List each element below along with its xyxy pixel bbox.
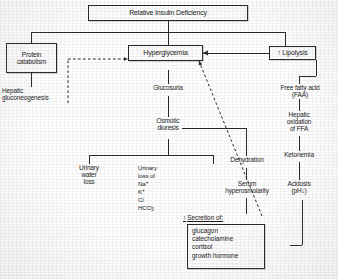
node-relative-insulin-deficiency[interactable]: Relative Insulin Deficiency [88, 5, 248, 21]
node-glucosuria: Glucosuria [140, 84, 196, 91]
node-lipolysis[interactable]: ↑ Lipolysis [269, 46, 316, 60]
secretion-header: ↑Secretion of: [183, 214, 223, 221]
node-label: Relative Insulin Deficiency [129, 9, 207, 17]
scan-vignette-overlay [0, 0, 338, 279]
node-hepatic-oxidation-ffa: Hepatic oxidation of FFA [270, 111, 328, 132]
node-label-line1: Hepatic [2, 87, 64, 94]
hormone-item: catecholamine [192, 235, 264, 243]
ion-bicarbonate: HCO3 [138, 204, 190, 213]
node-counterregulatory-hormones[interactable]: glucagon catecholamine cortisol growth h… [187, 224, 265, 269]
node-label-line2: oxidation [270, 118, 328, 125]
node-label-line3: of FFA [270, 125, 328, 132]
node-label: Hyperglycemia [143, 49, 187, 57]
hormone-item: growth hormone [192, 252, 264, 260]
hormone-item: cortisol [192, 243, 264, 251]
ion-sodium: Na+ [138, 180, 190, 188]
node-label-line1: Protein [22, 51, 42, 58]
node-label-line2: diuresis [142, 124, 194, 131]
node-label-line2: (FAA) [264, 91, 336, 98]
node-label-line1: Acidosis [272, 180, 326, 187]
node-urinary-electrolyte-loss: Urinary loss of Na+ K+ Cl HCO3 [138, 164, 190, 213]
node-label-line3: loss [66, 178, 112, 185]
node-free-fatty-acid: Free fatty acid (FAA) [264, 84, 336, 98]
node-label-line1: Osmotic [142, 117, 194, 124]
ion-potassium: K+ [138, 188, 190, 196]
node-acidosis: Acidosis (pH↓) [272, 180, 326, 194]
node-label-line1: Free fatty acid [264, 84, 336, 91]
node-label: Glucosuria [153, 84, 183, 91]
node-label-line2: water [66, 171, 112, 178]
hormone-item: glucagon [192, 227, 264, 235]
paper-texture-overlay [0, 0, 338, 279]
node-label-line2: gluconeogenesis [2, 94, 64, 101]
node-hepatic-gluconeogenesis: Hepatic gluconeogenesis [2, 87, 64, 101]
connector-lines [0, 0, 338, 279]
flowchart-diagram: Relative Insulin Deficiency Protein cata… [0, 0, 338, 279]
node-label-line2: loss of [138, 172, 190, 180]
node-urinary-water-loss: Urinary water loss [66, 164, 112, 185]
node-osmotic-diuresis: Osmotic diuresis [142, 117, 194, 131]
up-arrow-icon: ↑ [183, 214, 186, 221]
node-label-line1: Hepatic [270, 111, 328, 118]
node-hyperglycemia[interactable]: Hyperglycemia [128, 45, 203, 61]
node-label: Ketonemia [284, 151, 314, 158]
node-protein-catabolism[interactable]: Protein catabolism [6, 43, 57, 73]
node-label: Lipolysis [282, 49, 308, 57]
node-ketonemia: Ketonemia [268, 151, 330, 158]
node-label-line1: Urinary [66, 164, 112, 171]
up-arrow-icon: ↑ [277, 49, 280, 56]
node-label-line2: catabolism [17, 58, 47, 65]
ion-chloride: Cl [138, 196, 190, 204]
node-label-line1: Urinary [138, 164, 190, 172]
node-label: Dehydration [230, 156, 263, 163]
node-label-line2: (pH↓) [272, 187, 326, 194]
